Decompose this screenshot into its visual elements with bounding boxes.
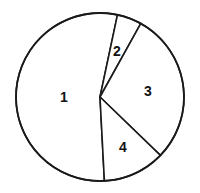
slice-label-2: 2 — [113, 43, 121, 59]
slice-label-4: 4 — [119, 139, 127, 155]
slice-label-1: 1 — [60, 89, 68, 105]
pie-chart: 1 2 3 4 — [0, 0, 200, 193]
slice-label-3: 3 — [144, 83, 152, 99]
